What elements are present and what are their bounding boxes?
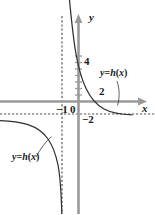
- curve-left-branch: [0, 121, 62, 215]
- curve-label-upper-close: ): [124, 67, 127, 78]
- origin-label: 0: [70, 104, 76, 115]
- graph-canvas: [0, 0, 155, 214]
- y-axis-arrow: [75, 14, 83, 23]
- curve-label-upper: y=h(x): [100, 68, 127, 78]
- x-intercept-label: 2: [99, 86, 105, 97]
- curve-label-lower-close: ): [36, 151, 39, 162]
- x-axis-label: x: [142, 103, 148, 114]
- graph-figure: y x 4 2 −1 0 −2 y=h(x) y=h(x): [0, 0, 155, 214]
- horizontal-asymptote-label: −2: [82, 114, 94, 125]
- curve-label-lower: y=h(x): [12, 152, 39, 162]
- vertical-asymptote-label: −1: [56, 104, 68, 115]
- y-intercept-label: 4: [84, 56, 90, 67]
- y-axis-label: y: [89, 12, 94, 23]
